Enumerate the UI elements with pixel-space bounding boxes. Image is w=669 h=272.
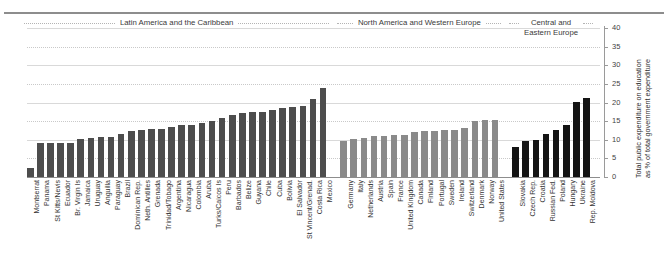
bar	[441, 130, 448, 177]
x-tick-label: Cuba	[276, 180, 283, 197]
bar	[533, 140, 540, 177]
bar	[88, 138, 95, 177]
bar	[148, 129, 155, 177]
x-tick-label: Poland	[559, 180, 566, 202]
x-tick-label: Denmark	[478, 180, 485, 208]
x-tick-label: Turks/Caicos Is	[215, 180, 222, 228]
x-tick-label: Czech Rep.	[529, 180, 536, 217]
group-header-rule-right	[238, 23, 329, 24]
y-tick-mark	[604, 28, 608, 29]
y-tick-mark	[604, 177, 608, 178]
x-tick-label: Barbados	[235, 180, 242, 210]
bar	[482, 120, 489, 177]
bar	[128, 131, 135, 177]
bar	[472, 121, 479, 177]
y-tick-label: 20	[612, 99, 620, 107]
x-tick-label: Belize	[245, 180, 252, 199]
bar	[421, 131, 428, 177]
bar	[168, 127, 175, 177]
bar	[178, 125, 185, 177]
x-tick-label: Portugal	[438, 180, 445, 206]
group-header-rule-right	[583, 23, 593, 24]
x-tick-label: Netherlands	[367, 180, 374, 218]
bar	[229, 115, 236, 177]
x-tick-label: Jamaica	[84, 180, 91, 206]
bar	[411, 132, 418, 177]
x-tick-label: Uruguay	[94, 180, 101, 206]
bar	[239, 113, 246, 177]
x-tick-label: Neth. Antilles	[144, 180, 151, 221]
y-tick-label: 10	[612, 136, 620, 144]
bar	[37, 143, 44, 177]
bar	[219, 118, 226, 177]
x-tick-label: Anguilla	[104, 180, 111, 205]
x-tick-label: Montserrat	[33, 180, 40, 213]
group-header-rule-left	[337, 23, 353, 24]
x-tick-label: Trinidad/Tobago	[165, 180, 172, 230]
bar	[451, 130, 458, 177]
group-header-rule-left	[24, 23, 115, 24]
bar	[77, 139, 84, 177]
x-tick-label: Rep. Moldova	[589, 180, 596, 223]
x-tick-label: Brazil	[124, 180, 131, 198]
x-tick-label: Hungary	[569, 180, 576, 206]
x-tick-label: Colombia	[195, 180, 202, 210]
x-tick-label: France	[397, 180, 404, 202]
bar	[67, 143, 74, 177]
bar	[209, 121, 216, 177]
bar	[249, 112, 256, 177]
x-tick-label: Aruba	[205, 180, 212, 199]
bar	[431, 131, 438, 177]
group-header-label: Latin America and the Caribbean	[115, 18, 239, 28]
x-tick-label: Bolivia	[286, 180, 293, 201]
bar	[361, 138, 368, 177]
y-tick-mark	[604, 158, 608, 159]
bar	[401, 135, 408, 177]
bar	[57, 143, 64, 177]
bar	[279, 108, 286, 177]
x-tick-label: Norway	[488, 180, 495, 204]
x-tick-label: St Vincent/Grenad.	[306, 180, 313, 239]
y-tick-mark	[604, 103, 608, 104]
x-tick-label: Chile	[265, 180, 272, 196]
x-tick-label: Nicaragua	[185, 180, 192, 212]
chart-figure: Latin America and the CaribbeanNorth Ame…	[0, 0, 669, 272]
bar	[350, 139, 357, 177]
x-tick-label: United Kingdom	[407, 180, 414, 230]
x-tick-label: Ireland	[458, 180, 465, 201]
y-tick-label: 30	[612, 61, 620, 69]
bar	[381, 136, 388, 177]
bar	[512, 147, 519, 177]
bar	[553, 130, 560, 177]
bar	[583, 98, 590, 177]
y-tick-label: 0	[612, 173, 616, 181]
bar	[522, 141, 529, 177]
group-header-label: North America and Western Europe	[353, 18, 486, 28]
bar	[138, 130, 145, 177]
bar	[310, 99, 317, 177]
x-tick-label: Guyana	[255, 180, 262, 205]
bar	[461, 128, 468, 177]
x-tick-label: Grenada	[154, 180, 161, 207]
x-tick-label: Peru	[225, 180, 232, 195]
bar	[98, 137, 105, 177]
bar	[27, 168, 34, 177]
x-tick-label: El Salvador	[296, 180, 303, 216]
bar	[259, 112, 266, 177]
bar	[269, 110, 276, 177]
bar	[188, 125, 195, 177]
y-tick-label: 5	[612, 154, 616, 162]
y-tick-label: 25	[612, 80, 620, 88]
bar	[300, 106, 307, 177]
x-tick-label: Panama	[43, 180, 50, 206]
x-tick-label: Ecuador	[64, 180, 71, 206]
x-tick-label: Germany	[347, 180, 354, 209]
bar	[47, 143, 54, 177]
x-tick-label: Russian Fed.	[549, 180, 556, 221]
bar	[118, 134, 125, 177]
bar	[563, 125, 570, 177]
x-tick-label: Austria	[377, 180, 384, 202]
x-tick-label: Switzerland	[468, 180, 475, 216]
y-tick-label: 35	[612, 43, 620, 51]
plot-area	[27, 28, 600, 177]
